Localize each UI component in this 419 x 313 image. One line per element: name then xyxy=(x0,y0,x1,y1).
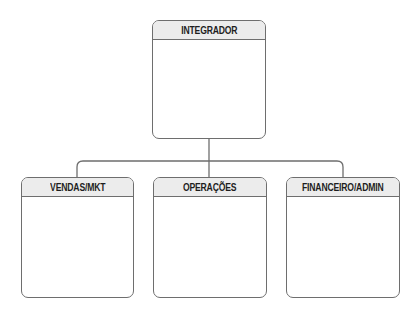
child-box-header: OPERAÇÕES xyxy=(154,178,266,197)
child-box-operacoes: OPERAÇÕES xyxy=(153,177,267,298)
root-box-header: INTEGRADOR xyxy=(153,21,265,40)
child-box-vendas-mkt: VENDAS/MKT xyxy=(21,177,134,298)
child-box-financeiro-admin: FINANCEIRO/ADMIN xyxy=(286,177,400,298)
child-box-header: FINANCEIRO/ADMIN xyxy=(287,178,399,197)
child-box-header: VENDAS/MKT xyxy=(22,178,133,197)
root-box-integrador: INTEGRADOR xyxy=(152,20,266,139)
